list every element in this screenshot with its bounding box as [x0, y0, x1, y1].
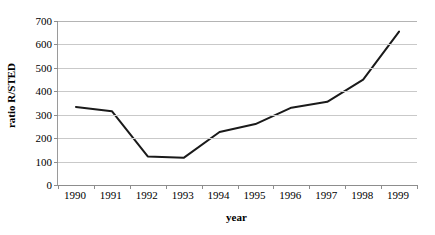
- x-tick-label-1997: 1997: [315, 190, 337, 201]
- line-chart: ratio R/STED 0100200300400500600700 1990…: [0, 0, 435, 235]
- plot-area: [57, 21, 417, 185]
- gridline-700: [58, 21, 417, 22]
- y-tick-label-400: 400: [22, 86, 52, 97]
- x-tick-mark-3: [166, 185, 167, 189]
- y-tick-mark-600: [54, 44, 58, 45]
- x-tick-label-1996: 1996: [279, 190, 301, 201]
- data-series-ratio-r-sted: [58, 21, 417, 185]
- y-tick-label-200: 200: [22, 133, 52, 144]
- x-tick-mark-8: [345, 185, 346, 189]
- x-tick-label-1993: 1993: [172, 190, 194, 201]
- y-tick-label-500: 500: [22, 62, 52, 73]
- y-tick-label-700: 700: [22, 16, 52, 27]
- x-tick-mark-4: [202, 185, 203, 189]
- x-tick-mark-9: [381, 185, 382, 189]
- x-tick-label-1998: 1998: [351, 190, 373, 201]
- y-axis-title: ratio R/STED: [0, 0, 24, 190]
- y-tick-mark-500: [54, 68, 58, 69]
- gridline-400: [58, 91, 417, 92]
- y-tick-mark-400: [54, 91, 58, 92]
- x-tick-mark-6: [273, 185, 274, 189]
- y-tick-label-100: 100: [22, 156, 52, 167]
- y-tick-mark-200: [54, 138, 58, 139]
- x-tick-mark-2: [130, 185, 131, 189]
- x-tick-label-1991: 1991: [100, 190, 122, 201]
- x-tick-label-1990: 1990: [64, 190, 86, 201]
- y-tick-label-600: 600: [22, 39, 52, 50]
- x-tick-mark-5: [238, 185, 239, 189]
- gridline-200: [58, 138, 417, 139]
- x-tick-label-1999: 1999: [387, 190, 409, 201]
- gridline-100: [58, 162, 417, 163]
- x-tick-label-1995: 1995: [243, 190, 265, 201]
- x-tick-mark-0: [58, 185, 59, 189]
- y-tick-label-0: 0: [22, 180, 52, 191]
- y-tick-mark-100: [54, 162, 58, 163]
- x-tick-label-1992: 1992: [136, 190, 158, 201]
- y-tick-mark-700: [54, 21, 58, 22]
- x-axis-tick-labels: 1990199119921993199419951996199719981999: [57, 190, 416, 206]
- gridline-500: [58, 68, 417, 69]
- gridline-300: [58, 115, 417, 116]
- x-tick-mark-10: [417, 185, 418, 189]
- x-tick-mark-1: [94, 185, 95, 189]
- x-axis-title: year: [57, 212, 416, 223]
- y-axis-title-label: ratio R/STED: [7, 62, 18, 127]
- y-axis-tick-labels: 0100200300400500600700: [22, 0, 52, 235]
- y-tick-label-300: 300: [22, 109, 52, 120]
- x-tick-mark-7: [309, 185, 310, 189]
- y-tick-mark-300: [54, 115, 58, 116]
- gridline-600: [58, 44, 417, 45]
- x-tick-label-1994: 1994: [208, 190, 230, 201]
